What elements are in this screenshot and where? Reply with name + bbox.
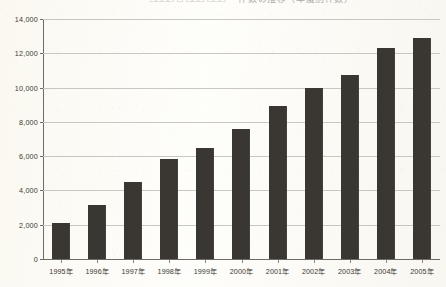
x-tick-mark [61, 260, 62, 263]
x-tick-mark [242, 260, 243, 263]
y-axis-tick-label: 8,000 [0, 117, 38, 126]
x-tick-mark [97, 260, 98, 263]
bar-slot [404, 19, 440, 259]
chart-page: □□□□ □ □□□ □□□ ・件数の推移（年度別件数） 02,0004,000… [0, 0, 446, 287]
bar-slot [187, 19, 223, 259]
x-tick-mark [205, 260, 206, 263]
y-axis-tick-label: 14,000 [0, 15, 38, 24]
bar [196, 148, 214, 259]
bar-slot [296, 19, 332, 259]
bar-series [43, 19, 440, 259]
x-tick-mark [314, 260, 315, 263]
y-axis-tick-label: 2,000 [0, 220, 38, 229]
bar-slot [368, 19, 404, 259]
x-tick-mark [350, 260, 351, 263]
y-axis-tick-label: 12,000 [0, 49, 38, 58]
cropped-title-strip: □□□□ □ □□□ □□□ ・件数の推移（年度別件数） [0, 0, 446, 9]
x-tick-mark [422, 260, 423, 263]
bar [88, 205, 106, 259]
bar-slot [43, 19, 79, 259]
bar [232, 129, 250, 259]
y-tick-mark [40, 259, 43, 260]
y-axis-tick-label: 6,000 [0, 152, 38, 161]
bar [377, 48, 395, 259]
y-axis-tick-label: 4,000 [0, 186, 38, 195]
bar-slot [332, 19, 368, 259]
x-axis-tick-label: 2005年 [399, 266, 445, 276]
bar [341, 75, 359, 259]
chart-title-fragment: □□□□ □ □□□ □□□ ・件数の推移（年度別件数） [150, 0, 354, 5]
y-axis-tick-label: 0 [0, 255, 38, 264]
x-tick-mark [133, 260, 134, 263]
bar [305, 88, 323, 259]
bar-slot [115, 19, 151, 259]
bar [413, 38, 431, 259]
bar-slot [151, 19, 187, 259]
x-tick-mark [386, 260, 387, 263]
x-tick-mark [278, 260, 279, 263]
x-tick-mark [169, 260, 170, 263]
y-axis-tick-label: 10,000 [0, 83, 38, 92]
bar-slot [79, 19, 115, 259]
bar [269, 106, 287, 259]
bar [160, 159, 178, 259]
bar-slot [260, 19, 296, 259]
bar [52, 223, 70, 259]
bar-slot [223, 19, 259, 259]
bar [124, 182, 142, 259]
